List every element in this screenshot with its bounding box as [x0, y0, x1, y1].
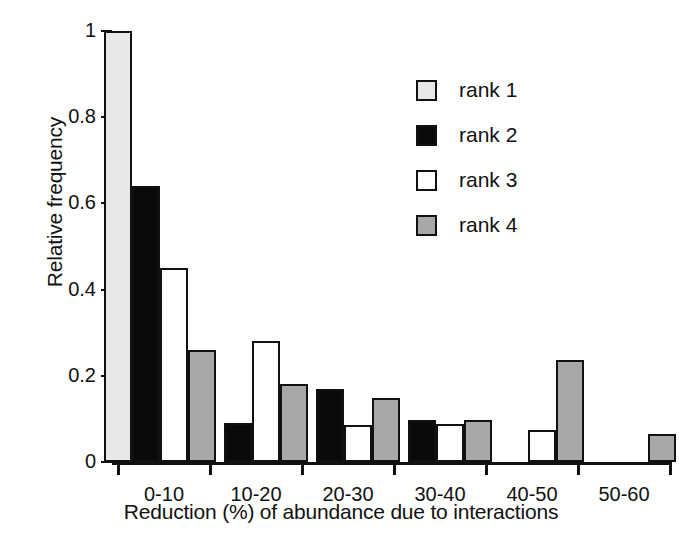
bar [464, 420, 492, 462]
bar [316, 389, 344, 462]
legend-label: rank 1 [459, 78, 517, 102]
legend-item[interactable]: rank 2 [416, 123, 517, 147]
legend-label: rank 2 [459, 123, 517, 147]
y-axis-title: Relative frequency [43, 52, 67, 352]
x-tick [577, 462, 580, 475]
legend-item[interactable]: rank 4 [416, 213, 517, 237]
x-tick [669, 462, 672, 475]
x-tick [117, 462, 120, 475]
bar [224, 423, 252, 462]
y-tick-label: 0.2 [68, 364, 96, 387]
bar [436, 424, 464, 462]
bar [188, 350, 216, 462]
bar [280, 384, 308, 462]
x-tick [485, 462, 488, 475]
legend-swatch-icon [416, 170, 437, 191]
bar [104, 31, 132, 462]
y-tick-label: 0.4 [68, 278, 96, 301]
legend-swatch-icon [416, 215, 437, 236]
bar [132, 186, 160, 462]
x-tick [301, 462, 304, 475]
bar [160, 268, 188, 462]
bar [648, 434, 676, 462]
plot-area: 00.20.40.60.81 0-1010-2020-3030-4040-505… [112, 31, 670, 462]
bar [252, 341, 280, 462]
x-axis-title: Reduction (%) of abundance due to intera… [0, 500, 682, 524]
legend-swatch-icon [416, 80, 437, 101]
bar [556, 360, 584, 462]
legend-item[interactable]: rank 3 [416, 168, 517, 192]
y-tick-label: 0 [85, 450, 96, 473]
legend-label: rank 4 [459, 213, 517, 237]
bar [408, 420, 436, 462]
legend-swatch-icon [416, 125, 437, 146]
bar [344, 425, 372, 462]
bar [372, 398, 400, 462]
x-tick [209, 462, 212, 475]
y-tick-label: 0.8 [68, 105, 96, 128]
legend-item[interactable]: rank 1 [416, 78, 517, 102]
x-tick [393, 462, 396, 475]
x-axis-line [112, 462, 670, 465]
chart-figure: Relative frequency 00.20.40.60.81 0-1010… [0, 0, 682, 553]
y-tick-label: 1 [85, 19, 96, 42]
y-tick-label: 0.6 [68, 191, 96, 214]
bar [528, 430, 556, 462]
legend-label: rank 3 [459, 168, 517, 192]
